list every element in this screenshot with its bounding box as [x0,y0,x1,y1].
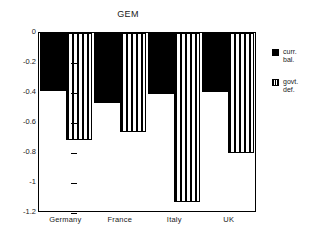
chart-figure: GEM 0 [0,0,316,240]
xtick-label-italy: Italy [147,215,202,224]
chart-title: GEM [0,9,256,19]
plot-area: 0 -0.2 -0.4 -0.6 -0.8 -1 -1.2 [38,32,256,212]
legend-label-curr-bal: curr.bal. [283,48,297,64]
xtick-label-uk: UK [202,215,257,224]
bar-group-germany [39,33,93,211]
bar-group-italy [147,33,201,211]
legend-label-govt-def: govt.def. [283,78,298,94]
solid-square-icon [272,49,279,56]
chart-legend: curr.bal. govt.def. [272,48,316,108]
bar-italy-curr-bal[interactable] [148,33,174,94]
x-axis-labels: Germany France Italy UK [38,215,256,224]
bar-group-uk [201,33,255,211]
ytick-label-6: -1.2 [23,207,36,216]
xtick-label-germany: Germany [38,215,93,224]
xtick-label-france: France [93,215,148,224]
bar-group-france [93,33,147,211]
bar-germany-curr-bal[interactable] [40,33,66,91]
bar-france-curr-bal[interactable] [94,33,120,103]
legend-entry-curr-bal[interactable]: curr.bal. [272,48,316,64]
ytick-label-2: -0.4 [23,87,36,96]
bars-layer [39,33,255,211]
ytick-label-1: -0.2 [23,57,36,66]
ytick-label-4: -0.8 [23,147,36,156]
bar-germany-govt-def[interactable] [66,33,92,140]
bar-italy-govt-def[interactable] [174,33,200,202]
bar-uk-curr-bal[interactable] [202,33,228,92]
striped-square-icon [272,79,279,86]
ytick-label-3: -0.6 [23,117,36,126]
ytick-label-5: -1 [29,177,36,186]
ytick-label-0: 0 [32,27,36,36]
bar-france-govt-def[interactable] [120,33,146,132]
legend-entry-govt-def[interactable]: govt.def. [272,78,316,94]
bar-uk-govt-def[interactable] [228,33,254,153]
